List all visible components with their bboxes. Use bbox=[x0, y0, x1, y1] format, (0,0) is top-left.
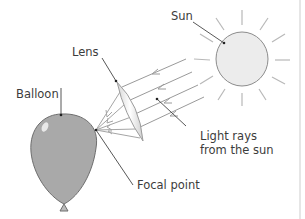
lens-label: Lens bbox=[72, 45, 99, 59]
ray-arrowheads bbox=[152, 69, 178, 116]
balloon-body bbox=[31, 114, 97, 204]
balloon-knot bbox=[60, 204, 68, 211]
converging-arrowheads bbox=[106, 110, 113, 134]
light-rays-label-line1: Light rays bbox=[200, 129, 257, 143]
lens-balloon-diagram: Sun Lens Balloon Light rays from the sun… bbox=[0, 0, 305, 219]
diagram-canvas: Sun Lens Balloon Light rays from the sun… bbox=[0, 0, 305, 219]
light-rays-label-line2: from the sun bbox=[200, 143, 274, 157]
sun-circle bbox=[216, 32, 268, 86]
sun-label: Sun bbox=[171, 9, 193, 23]
lens-shape bbox=[117, 82, 143, 141]
focal-point-label: Focal point bbox=[137, 178, 200, 192]
balloon-label: Balloon bbox=[16, 87, 59, 101]
